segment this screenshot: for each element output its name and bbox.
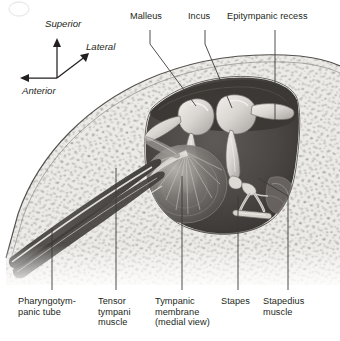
label-pharyngotympanic-tube: Pharyngotym- panic tube [18,296,76,317]
compass-label-superior: Superior [45,18,81,29]
label-stapedius-muscle: Stapedius muscle [263,296,304,317]
label-stapes: Stapes [221,296,250,307]
bottom-fade [0,245,340,291]
compass-label-anterior: Anterior [22,85,56,96]
middle-ear-illustration [0,0,340,341]
label-epitympanic-recess: Epitympanic recess [227,11,308,22]
label-tensor-tympani-muscle: Tensor tympani muscle [98,296,131,328]
label-incus: Incus [188,11,210,22]
compass-label-lateral: Lateral [86,41,115,52]
label-malleus: Malleus [130,11,162,22]
label-tympanic-membrane: Tympanic membrane (medial view) [155,296,210,328]
